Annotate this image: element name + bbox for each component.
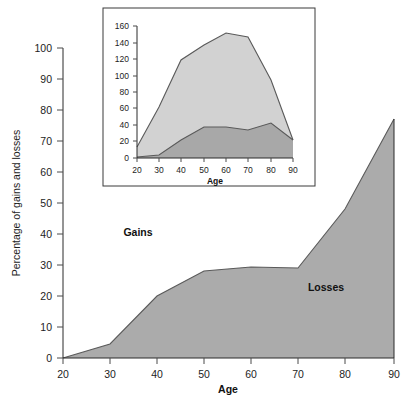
inset-x-axis-title: Age [207, 176, 223, 186]
gains-area-label: Gains [123, 226, 152, 238]
inset-x-tick-90: 90 [288, 165, 298, 175]
main-y-tick-40: 40 [40, 228, 52, 240]
inset-y-tick-100: 100 [115, 71, 129, 81]
main-x-tick-50: 50 [198, 368, 210, 380]
inset-x-tick-60: 60 [221, 165, 231, 175]
inset-x-tick-50: 50 [199, 165, 209, 175]
main-y-tick-60: 60 [40, 166, 52, 178]
inset-y-tick-20: 20 [120, 136, 130, 146]
main-x-tick-90: 90 [388, 368, 400, 380]
inset-y-tick-40: 40 [120, 120, 130, 130]
inset-y-tick-120: 120 [115, 54, 129, 64]
inset-x-tick-20: 20 [132, 165, 142, 175]
main-x-tick-70: 70 [292, 368, 304, 380]
main-y-tick-100: 100 [34, 42, 52, 54]
chart-figure: 0 10 20 30 40 50 60 70 80 90 100 20 30 4… [0, 0, 417, 408]
main-y-tick-0: 0 [46, 352, 52, 364]
main-y-tick-50: 50 [40, 197, 52, 209]
inset-x-tick-30: 30 [154, 165, 164, 175]
inset-chart: 0 20 40 60 80 100 120 140 160 20 30 40 5… [103, 8, 315, 186]
main-y-tick-20: 20 [40, 290, 52, 302]
main-x-tick-20: 20 [57, 368, 69, 380]
main-x-tick-40: 40 [151, 368, 163, 380]
main-x-axis-title: Age [218, 383, 238, 395]
main-y-tick-70: 70 [40, 135, 52, 147]
main-y-tick-10: 10 [40, 321, 52, 333]
main-x-ticks [63, 358, 394, 364]
inset-y-tick-0: 0 [124, 153, 129, 163]
inset-y-tick-140: 140 [115, 38, 129, 48]
main-y-tick-80: 80 [40, 104, 52, 116]
main-x-tick-80: 80 [339, 368, 351, 380]
inset-x-tick-80: 80 [266, 165, 276, 175]
main-y-axis-title: Percentage of gains and losses [10, 130, 22, 277]
chart-svg: 0 10 20 30 40 50 60 70 80 90 100 20 30 4… [0, 0, 417, 408]
inset-x-tick-70: 70 [243, 165, 253, 175]
losses-area-label: Losses [308, 281, 344, 293]
main-y-tick-90: 90 [40, 73, 52, 85]
main-y-tick-30: 30 [40, 259, 52, 271]
main-y-ticks [57, 48, 63, 358]
inset-y-tick-80: 80 [120, 87, 130, 97]
inset-x-tick-40: 40 [176, 165, 186, 175]
inset-y-tick-160: 160 [115, 21, 129, 31]
main-x-tick-30: 30 [104, 368, 116, 380]
main-x-tick-60: 60 [245, 368, 257, 380]
inset-y-tick-60: 60 [120, 103, 130, 113]
